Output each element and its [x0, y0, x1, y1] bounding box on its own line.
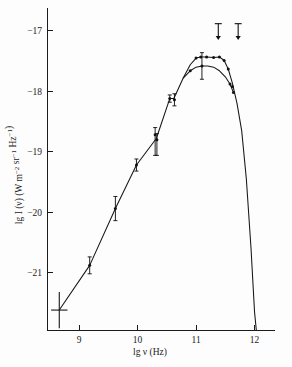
- data-point-marker: [114, 207, 117, 210]
- data-point-marker: [231, 85, 234, 88]
- y-tick-label: −18: [27, 87, 42, 97]
- data-point-marker: [173, 98, 176, 101]
- data-curves: [59, 57, 256, 330]
- data-point-marker: [88, 264, 91, 267]
- limit-arrowhead: [236, 36, 241, 40]
- data-point-marker: [155, 138, 158, 141]
- y-axis-title: lg I (ν) (W m−2 sr−1 Hz−1): [4, 126, 25, 224]
- data-point-marker: [168, 97, 171, 100]
- upper-limit-arrows: [215, 24, 242, 40]
- x-tick-label: 12: [250, 335, 260, 345]
- data-point-marker: [200, 64, 203, 67]
- data-point-marker: [195, 57, 198, 60]
- data-point-marker: [223, 59, 226, 62]
- data-point-marker: [189, 69, 192, 72]
- y-tick-label: −17: [27, 26, 42, 36]
- y-tick-label: −19: [27, 147, 42, 157]
- error-bars: [51, 53, 204, 329]
- spectrum-plot: 9101112 −17−18−19−20−21 lg ν (Hz) lg I (…: [0, 0, 292, 367]
- data-point-marker: [205, 55, 208, 58]
- y-tick-label: −20: [27, 208, 42, 218]
- data-point-marker: [154, 133, 157, 136]
- x-tick-label: 11: [191, 335, 200, 345]
- data-point-marker: [135, 164, 138, 167]
- x-axis-title-text: lg ν (Hz): [133, 347, 167, 358]
- data-point-marker: [218, 55, 221, 58]
- curve-main-spectrum: [59, 57, 256, 330]
- data-point-marker: [212, 56, 215, 59]
- x-axis-ticks: 9101112: [77, 325, 260, 345]
- y-axis-ticks: −17−18−19−20−21: [27, 26, 53, 278]
- x-axis-title: lg ν (Hz): [133, 347, 167, 358]
- x-tick-label: 9: [77, 335, 82, 345]
- data-point-marker: [199, 55, 202, 58]
- data-point-marker: [227, 67, 230, 70]
- y-tick-label: −21: [27, 268, 42, 278]
- data-point-marker: [232, 91, 235, 94]
- data-points: [88, 55, 235, 266]
- y-axis-title-text: lg I (ν) (W m−2 sr−1 Hz−1): [4, 126, 25, 224]
- data-point-marker: [228, 83, 231, 86]
- figure-root: 9101112 −17−18−19−20−21 lg ν (Hz) lg I (…: [0, 0, 292, 367]
- limit-arrowhead: [216, 36, 221, 40]
- x-tick-label: 10: [133, 335, 143, 345]
- axes-group: [47, 8, 275, 330]
